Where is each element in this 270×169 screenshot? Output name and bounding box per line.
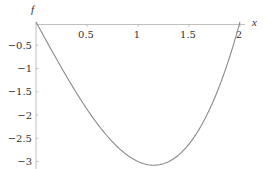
x-axis-label: x xyxy=(251,16,257,28)
x-tick-label: 1 xyxy=(134,29,140,40)
y-axis-label: f xyxy=(31,3,36,15)
x-axis-ticks: 0.511.52 xyxy=(78,25,242,41)
y-tick-label: −2 xyxy=(17,110,32,121)
y-tick-label: −2.5 xyxy=(8,133,32,144)
x-tick-label: 1.5 xyxy=(180,29,196,40)
y-tick-label: −0.5 xyxy=(8,40,32,51)
axes xyxy=(36,22,245,169)
y-tick-label: −1 xyxy=(17,63,32,74)
y-tick-label: −1.5 xyxy=(8,86,32,97)
y-tick-label: −3 xyxy=(17,156,32,167)
y-axis-ticks: −0.5−1−1.5−2−2.5−3 xyxy=(8,40,39,167)
function-plot: 0.511.52 −0.5−1−1.5−2−2.5−3 x f xyxy=(0,0,270,169)
function-curve xyxy=(36,22,240,165)
x-tick-label: 0.5 xyxy=(78,29,94,40)
